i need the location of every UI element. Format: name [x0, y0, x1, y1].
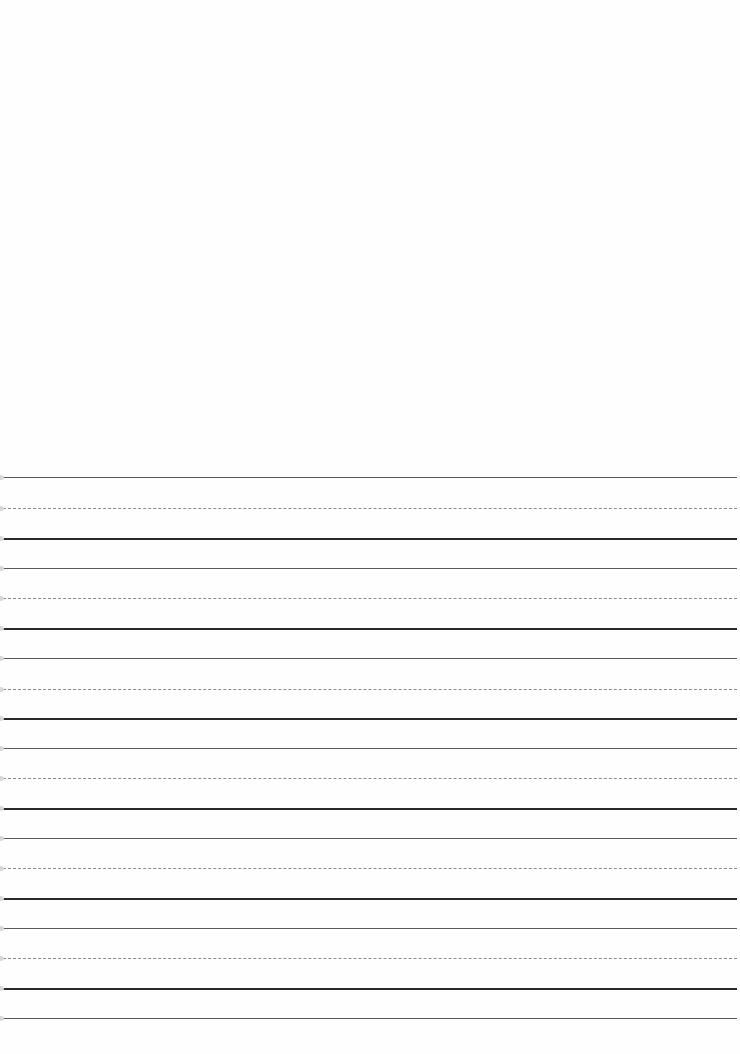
- edge-mark: [0, 1016, 4, 1021]
- top-line: [3, 838, 737, 839]
- midline-dashed: [3, 598, 737, 599]
- baseline: [3, 988, 737, 990]
- edge-mark: [0, 776, 4, 781]
- edge-mark: [0, 716, 4, 721]
- edge-mark: [0, 896, 4, 901]
- edge-mark: [0, 866, 4, 871]
- baseline: [3, 808, 737, 810]
- baseline: [3, 538, 737, 540]
- edge-mark: [0, 806, 4, 811]
- blank-drawing-area: [0, 0, 740, 470]
- top-line: [3, 928, 737, 929]
- baseline: [3, 718, 737, 720]
- edge-mark: [0, 687, 4, 692]
- edge-mark: [0, 566, 4, 571]
- top-line: [3, 477, 737, 478]
- top-line: [3, 658, 737, 659]
- edge-mark: [0, 506, 4, 511]
- midline-dashed: [3, 689, 737, 690]
- edge-mark: [0, 986, 4, 991]
- edge-mark: [0, 596, 4, 601]
- edge-mark: [0, 626, 4, 631]
- baseline: [3, 898, 737, 900]
- edge-mark: [0, 926, 4, 931]
- top-line: [3, 568, 737, 569]
- top-line: [3, 748, 737, 749]
- baseline: [3, 628, 737, 630]
- top-line: [3, 1018, 737, 1019]
- midline-dashed: [3, 778, 737, 779]
- edge-mark: [0, 746, 4, 751]
- edge-mark: [0, 656, 4, 661]
- edge-mark: [0, 956, 4, 961]
- midline-dashed: [3, 508, 737, 509]
- edge-mark: [0, 836, 4, 841]
- practice-paper: [0, 0, 740, 1054]
- midline-dashed: [3, 868, 737, 869]
- edge-mark: [0, 536, 4, 541]
- midline-dashed: [3, 958, 737, 959]
- edge-mark: [0, 475, 4, 480]
